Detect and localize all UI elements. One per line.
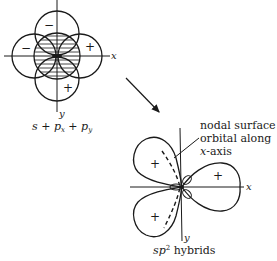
left-y-axis-label: y <box>58 108 65 119</box>
left-figure-s-px-py: x y − − + + s + px + py <box>4 0 117 134</box>
left-caption: s + px + py <box>32 120 93 134</box>
right-caption: sp2 hybrids <box>153 244 216 257</box>
sign-lower-left-plus: + <box>150 210 160 224</box>
sign-right-plus: + <box>213 169 223 183</box>
transformation-arrow <box>126 78 159 112</box>
sign-right-plus: + <box>85 40 95 54</box>
sign-upper-left-plus: + <box>150 157 160 171</box>
annotation-leader-line <box>174 138 199 158</box>
right-y-axis-label: y <box>183 232 190 243</box>
left-x-axis-label: x <box>111 50 117 61</box>
sign-top-minus: − <box>44 18 54 32</box>
annotation-line-3: x-axis <box>200 145 232 158</box>
right-x-axis-label: x <box>246 181 252 192</box>
sign-left-minus: − <box>21 41 31 55</box>
nucleus-center <box>180 185 184 189</box>
annotation-line-1: nodal surface of <box>200 119 277 132</box>
right-figure-sp2-hybrids: x y + + + nodal surface of orbital along… <box>130 119 277 257</box>
sp2-hybridization-diagram: x y − − + + s + px + py x y + + <box>0 0 277 261</box>
annotation-line-2: orbital along <box>200 132 271 145</box>
sign-bottom-plus: + <box>63 81 73 95</box>
